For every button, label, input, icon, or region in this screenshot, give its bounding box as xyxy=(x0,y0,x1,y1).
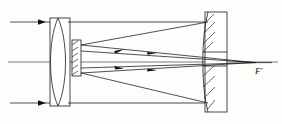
primary-mirror xyxy=(203,12,227,112)
primary-mirror-substrate xyxy=(205,12,227,112)
focus-ray-lower-outer xyxy=(81,63,254,74)
focus-ray-upper-group xyxy=(81,45,254,63)
secondary-mirror-body xyxy=(72,40,81,76)
optics-diagram-canvas: F' xyxy=(0,0,282,124)
reflected-ray-lower xyxy=(81,73,208,103)
incoming-ray-lower-arrowhead xyxy=(38,100,46,103)
reflected-ray-upper xyxy=(81,22,208,45)
focus-ray-inner-lower xyxy=(81,63,256,68)
focus-ray-lower-group xyxy=(81,63,254,74)
incoming-ray-upper-arrowhead xyxy=(38,19,46,22)
incoming-ray-lower-group xyxy=(10,100,50,106)
reflected-ray-upper-group xyxy=(81,22,208,54)
focus-ray-inner-upper xyxy=(81,51,256,63)
secondary-mirror xyxy=(72,40,81,76)
optical-diagram-figure: F' xyxy=(0,0,282,124)
focus-ray-upper-outer xyxy=(81,45,254,63)
incoming-ray-upper-arrowhead-lower xyxy=(38,22,46,25)
incoming-ray-upper-group xyxy=(10,19,50,25)
focal-point-label: F' xyxy=(254,66,263,76)
incoming-ray-lower-arrowhead-lower xyxy=(38,103,46,106)
